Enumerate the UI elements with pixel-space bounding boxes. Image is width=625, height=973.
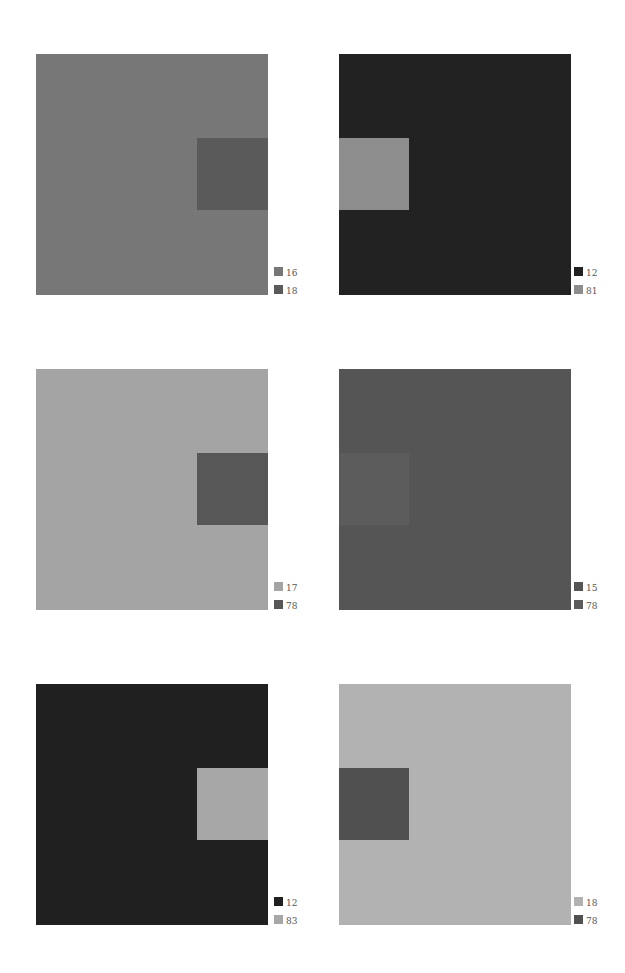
inner-square-6 <box>339 768 409 840</box>
color-panel-1 <box>36 54 268 295</box>
color-panel-6 <box>339 684 571 925</box>
legend-swatch <box>274 582 283 591</box>
legend-swatch <box>274 267 283 276</box>
legend-swatch <box>574 897 583 906</box>
legend-label: 12 <box>586 269 597 278</box>
legend-label: 16 <box>286 269 297 278</box>
inner-square-1 <box>197 138 268 210</box>
legend-swatch <box>574 915 583 924</box>
legend-label: 78 <box>586 917 597 926</box>
legend-label: 18 <box>586 899 597 908</box>
legend-swatch <box>574 285 583 294</box>
inner-square-4 <box>339 453 409 525</box>
inner-square-5 <box>197 768 268 840</box>
legend-label: 83 <box>286 917 297 926</box>
legend-swatch <box>274 600 283 609</box>
inner-square-3 <box>197 453 268 525</box>
legend-label: 18 <box>286 287 297 296</box>
legend-swatch <box>574 600 583 609</box>
legend-label: 12 <box>286 899 297 908</box>
color-panel-2 <box>339 54 571 295</box>
color-panel-4 <box>339 369 571 610</box>
legend-label: 78 <box>286 602 297 611</box>
legend-label: 81 <box>586 287 597 296</box>
legend-swatch <box>574 582 583 591</box>
legend-swatch <box>574 267 583 276</box>
legend-label: 15 <box>586 584 597 593</box>
legend-label: 17 <box>286 584 297 593</box>
color-panel-3 <box>36 369 268 610</box>
legend-swatch <box>274 915 283 924</box>
legend-label: 78 <box>586 602 597 611</box>
inner-square-2 <box>339 138 409 210</box>
legend-swatch <box>274 285 283 294</box>
legend-swatch <box>274 897 283 906</box>
color-panel-5 <box>36 684 268 925</box>
